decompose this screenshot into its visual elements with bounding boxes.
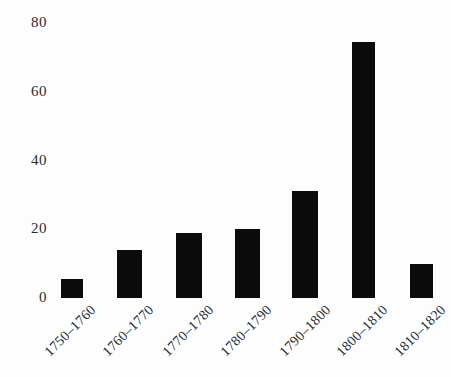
y-tick-label-0: 0 — [39, 290, 47, 305]
plot-area — [56, 0, 451, 298]
bar-1790-1800 — [292, 191, 318, 298]
y-tick-label-20: 20 — [31, 221, 47, 236]
bar-1810-1820 — [410, 264, 433, 298]
bar-1750-1760 — [61, 279, 83, 298]
y-tick-label-60: 60 — [31, 84, 47, 99]
x-axis: 1750–1760 1760–1770 1770–1780 1780–1790 … — [56, 298, 451, 377]
y-axis: 80 60 40 20 0 — [0, 0, 56, 377]
bar-1780-1790 — [235, 229, 260, 298]
x-tick-label-1770-1780: 1770–1780 — [160, 302, 217, 359]
y-tick-label-40: 40 — [31, 153, 47, 168]
x-tick-label-1790-1800: 1790–1800 — [277, 302, 334, 359]
x-tick-label-1780-1790: 1780–1790 — [218, 302, 275, 359]
bar-chart: 80 60 40 20 0 1750–1760 1760–1770 1770–1… — [0, 0, 451, 377]
bar-1760-1770 — [117, 250, 142, 298]
bar-1800-1810 — [352, 42, 375, 298]
x-tick-label-1810-1820: 1810–1820 — [392, 302, 449, 359]
bar-1770-1780 — [176, 233, 202, 298]
y-tick-label-80: 80 — [31, 15, 47, 30]
x-tick-label-1800-1810: 1800–1810 — [334, 302, 391, 359]
x-tick-label-1760-1770: 1760–1770 — [100, 302, 157, 359]
